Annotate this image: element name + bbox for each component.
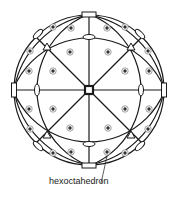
stereographic-projection [0,0,174,197]
fourfold-pole-top [82,12,96,17]
fourfold-pole-right [162,83,167,97]
center-fourfold-pole [85,86,93,94]
fourfold-pole-bottom [82,163,96,168]
fourfold-pole-left [12,83,17,97]
hexoctahedron-label: hexoctahedron [49,176,109,186]
